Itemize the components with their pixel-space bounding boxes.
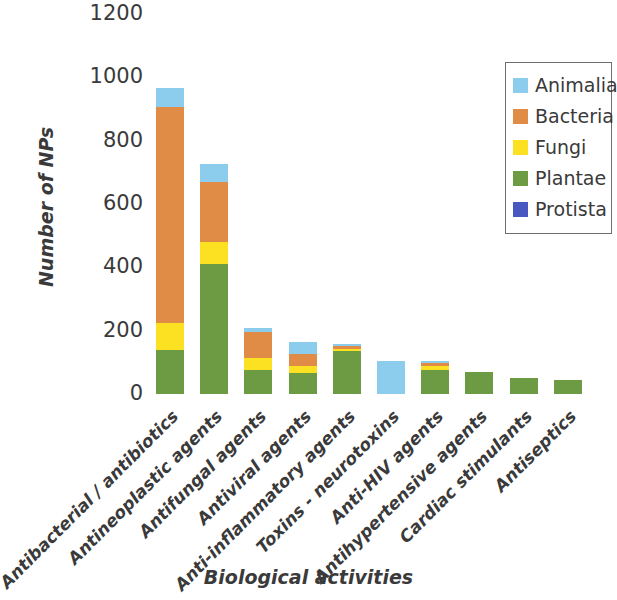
bar-segment-plantae xyxy=(333,351,361,394)
bar-segment-fungi xyxy=(244,358,272,371)
bar-segment-plantae xyxy=(289,373,317,394)
x-axis-title: Biological activities xyxy=(0,566,617,588)
bar-toxins-neurotoxins[interactable] xyxy=(377,361,405,394)
bar-antiviral-agents[interactable] xyxy=(289,342,317,394)
y-axis-tick-labels: 120010008006004002000 xyxy=(0,0,143,400)
bar-segment-animalia xyxy=(200,164,228,181)
bar-segment-bacteria xyxy=(156,107,184,322)
legend-label: Plantae xyxy=(535,169,606,188)
bar-antihypertensive-agents[interactable] xyxy=(465,372,493,394)
bar-segment-plantae xyxy=(465,372,493,394)
y-tick-800: 800 xyxy=(0,130,143,151)
legend-label: Protista xyxy=(535,200,607,219)
bar-segment-bacteria xyxy=(289,354,317,365)
bar-antifungal-agents[interactable] xyxy=(244,328,272,394)
legend-item-plantae[interactable]: Plantae xyxy=(513,163,611,194)
legend-swatch-plantae-icon xyxy=(513,171,528,186)
stacked-bar-chart: 120010008006004002000 Number of NPs Anti… xyxy=(0,0,617,600)
bar-segment-animalia xyxy=(289,342,317,354)
legend-swatch-bacteria-icon xyxy=(513,109,528,124)
legend-item-fungi[interactable]: Fungi xyxy=(513,132,611,163)
legend-label: Bacteria xyxy=(535,107,614,126)
bar-segment-plantae xyxy=(244,370,272,394)
x-tick-antibacterial-antibiotics: Antibacterial / antibiotics xyxy=(0,406,182,592)
bar-segment-bacteria xyxy=(200,182,228,242)
bar-antiseptics[interactable] xyxy=(554,380,582,394)
y-tick-600: 600 xyxy=(0,193,143,214)
legend-swatch-animalia-icon xyxy=(513,78,528,93)
y-tick-1200: 1200 xyxy=(0,3,143,24)
bar-segment-bacteria xyxy=(244,332,272,357)
legend: AnimaliaBacteriaFungiPlantaeProtista xyxy=(505,62,612,234)
bar-segment-plantae xyxy=(421,370,449,394)
x-axis-tick-labels: Antibacterial / antibioticsAntineoplasti… xyxy=(0,398,617,558)
bar-segment-animalia xyxy=(377,361,405,394)
bar-cardiac-stimulants[interactable] xyxy=(510,378,538,394)
bar-segment-fungi xyxy=(156,323,184,350)
legend-swatch-protista-icon xyxy=(513,202,528,217)
bar-segment-animalia xyxy=(156,88,184,107)
bar-anti-inflammatory-agents[interactable] xyxy=(333,344,361,394)
y-tick-400: 400 xyxy=(0,256,143,277)
bar-segment-fungi xyxy=(200,242,228,264)
legend-label: Fungi xyxy=(535,138,586,157)
legend-item-bacteria[interactable]: Bacteria xyxy=(513,101,611,132)
legend-item-animalia[interactable]: Animalia xyxy=(513,70,611,101)
bar-segment-plantae xyxy=(554,380,582,394)
bar-antibacterial-antibiotics[interactable] xyxy=(156,88,184,394)
legend-item-protista[interactable]: Protista xyxy=(513,194,611,225)
y-tick-200: 200 xyxy=(0,320,143,341)
legend-label: Animalia xyxy=(535,76,617,95)
bar-segment-plantae xyxy=(156,350,184,394)
bar-segment-plantae xyxy=(510,378,538,394)
bar-antineoplastic-agents[interactable] xyxy=(200,164,228,394)
bar-segment-fungi xyxy=(289,366,317,374)
bar-segment-plantae xyxy=(200,264,228,394)
legend-swatch-fungi-icon xyxy=(513,140,528,155)
y-tick-1000: 1000 xyxy=(0,66,143,87)
y-axis-title: Number of NPs xyxy=(35,97,57,317)
bar-anti-hiv-agents[interactable] xyxy=(421,361,449,394)
